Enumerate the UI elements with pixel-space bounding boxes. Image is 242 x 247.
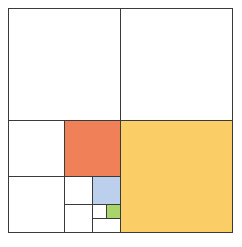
cell-q-top-left [8, 8, 121, 121]
cell-q3-top-right [92, 176, 121, 205]
subdivided-square-diagram [0, 0, 242, 247]
cell-q-top-right [120, 8, 233, 121]
cell-q2-bottom-left [8, 176, 65, 233]
cell-q4-bottom-strip [92, 218, 121, 233]
cell-q4-top-left [92, 204, 107, 219]
cell-q3-top-left [64, 176, 93, 205]
cell-q2-top-left [8, 120, 65, 177]
cell-q4-top-right [106, 204, 121, 219]
cell-q2-top-right [64, 120, 121, 177]
cell-q-bottom-right [120, 120, 233, 233]
cell-q3-bottom-left [64, 204, 93, 233]
